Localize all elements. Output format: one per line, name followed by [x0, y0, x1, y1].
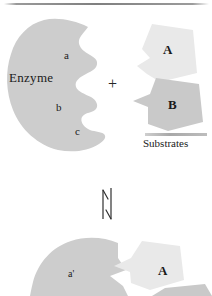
substrates-caption: Substrates	[143, 137, 188, 149]
enzyme-site-label-c: c	[75, 125, 80, 137]
substrate-b-label: B	[168, 97, 177, 113]
substrate-a-label: A	[163, 42, 172, 58]
enzyme-site-label-a: a	[64, 49, 69, 61]
complex-enzyme-site-label: a'	[68, 268, 74, 279]
complex-substrate-a-label: A	[158, 263, 167, 279]
enzyme-site-label-b: b	[56, 101, 62, 113]
enzyme-substrate-complex-group	[30, 238, 212, 296]
figure-canvas: Enzyme a b c + A B Substrates a' A	[0, 0, 212, 296]
substrates-caption-rule	[145, 133, 207, 136]
enzyme-label: Enzyme	[9, 70, 53, 86]
equilibrium-double-arrow	[103, 188, 111, 219]
complex-enzyme-shape	[30, 238, 128, 296]
complex-substrate-a-shape	[114, 241, 184, 290]
plus-operator: +	[108, 75, 117, 93]
